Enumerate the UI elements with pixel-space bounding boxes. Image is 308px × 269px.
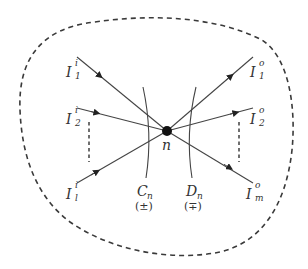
svg-text:i: i xyxy=(75,180,78,190)
svg-text:I: I xyxy=(65,111,72,127)
edge-output-m xyxy=(167,131,253,183)
label-cut-c: C n (±) xyxy=(135,183,153,213)
svg-text:l: l xyxy=(75,193,78,203)
svg-text:1: 1 xyxy=(259,71,265,81)
edge-input-l xyxy=(77,131,167,183)
svg-text:I: I xyxy=(249,111,256,127)
label-cut-d: D n (∓) xyxy=(184,183,203,213)
node-dot xyxy=(162,126,172,136)
svg-text:I: I xyxy=(65,64,72,80)
svg-text:i: i xyxy=(75,58,78,68)
svg-text:o: o xyxy=(259,58,265,68)
svg-text:(±): (±) xyxy=(135,200,153,213)
svg-text:I: I xyxy=(245,186,252,202)
svg-text:2: 2 xyxy=(258,118,265,128)
node-flow-diagram: n I i 1 I i 2 I i l I o 1 I o 2 I o m C … xyxy=(0,0,308,269)
cut-arc-d xyxy=(189,87,196,178)
svg-text:I: I xyxy=(249,64,256,80)
svg-text:(∓): (∓) xyxy=(184,200,202,213)
cut-arc-c xyxy=(143,87,149,178)
svg-text:o: o xyxy=(255,180,261,190)
svg-text:i: i xyxy=(75,105,78,115)
svg-text:D: D xyxy=(185,183,197,199)
svg-text:o: o xyxy=(259,105,265,115)
svg-text:I: I xyxy=(65,186,72,202)
label-input-l: I i l xyxy=(65,180,78,203)
svg-text:2: 2 xyxy=(74,118,81,128)
label-output-1: I o 1 xyxy=(249,58,265,81)
svg-text:m: m xyxy=(255,193,264,203)
svg-text:1: 1 xyxy=(75,71,81,81)
label-output-m: I o m xyxy=(245,180,264,203)
label-input-1: I i 1 xyxy=(65,58,81,81)
node-label: n xyxy=(162,137,171,153)
